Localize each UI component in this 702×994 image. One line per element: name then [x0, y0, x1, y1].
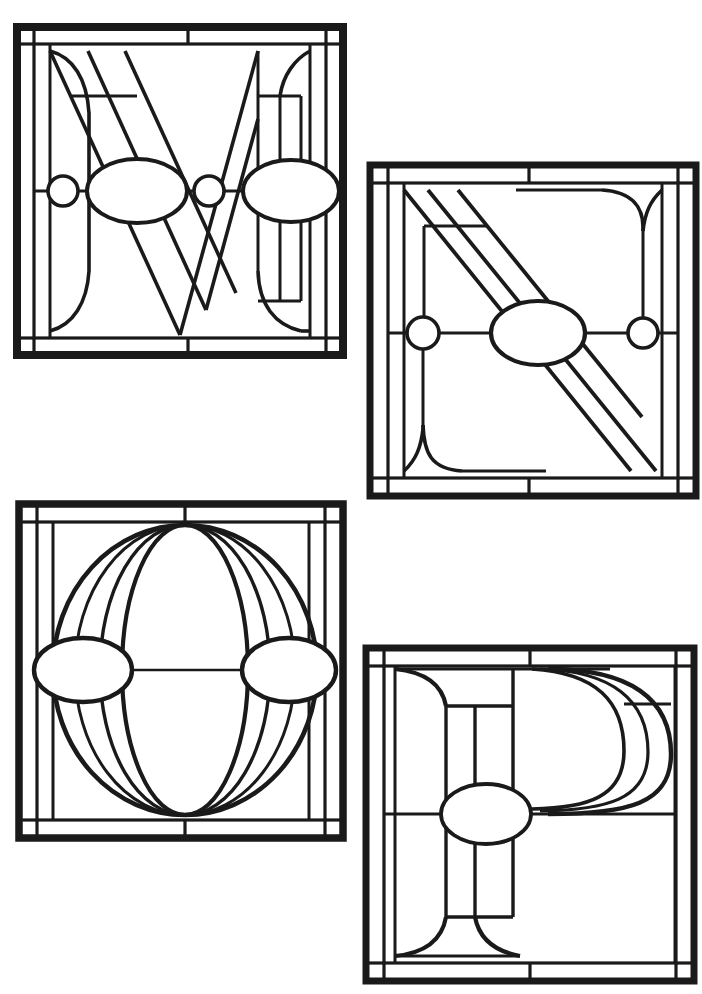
panel-o-drawing: Letter O panel	[15, 500, 347, 842]
panel-p-drawing: Letter P panel	[362, 644, 698, 985]
stained-glass-panel-m: Letter M panel	[13, 23, 347, 359]
panel-m-drawing: Letter M panel	[13, 23, 347, 359]
panel-p-jewel-oval	[441, 784, 531, 844]
panel-o-jewel-oval-left	[34, 638, 132, 702]
stained-glass-panel-p: Letter P panel	[362, 644, 698, 985]
stained-glass-panel-o: Letter O panel	[15, 500, 347, 842]
panel-m-jewel-circle-left	[48, 176, 78, 206]
panel-m-jewel-oval-left	[87, 159, 187, 223]
panel-n-jewel-circle-right	[628, 318, 658, 348]
panel-o-jewel-oval-right	[242, 638, 336, 702]
panel-n-drawing: Letter N panel	[366, 161, 700, 500]
panel-m-jewel-circle-right	[194, 176, 224, 206]
panel-n-jewel-oval-center	[491, 301, 585, 365]
panel-m-jewel-oval-right	[243, 160, 339, 222]
artwork-sheet: Letter M panel	[0, 0, 702, 994]
stained-glass-panel-n: Letter N panel	[366, 161, 700, 500]
panel-n-jewel-circle-left	[407, 317, 439, 349]
